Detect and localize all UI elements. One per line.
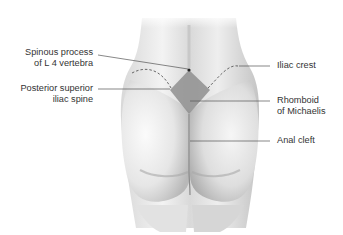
label-line: of L 4 vertebra <box>25 58 93 69</box>
label-line: Anal cleft <box>277 135 315 146</box>
label-line: Rhomboid <box>277 95 326 106</box>
label-anal-cleft: Anal cleft <box>277 135 315 146</box>
label-rhomboid-of-michaelis: Rhomboid of Michaelis <box>277 95 326 117</box>
label-line: Spinous process <box>25 47 93 58</box>
label-line: Iliac crest <box>277 60 316 71</box>
label-spinous-process-l4: Spinous process of L 4 vertebra <box>25 47 93 69</box>
label-line: iliac spine <box>20 94 93 105</box>
label-posterior-superior-iliac-spine: Posterior superior iliac spine <box>20 83 93 105</box>
label-iliac-crest: Iliac crest <box>277 60 316 71</box>
torso-illustration <box>0 0 343 235</box>
label-line: of Michaelis <box>277 106 326 117</box>
anatomy-diagram: Spinous process of L 4 vertebra Posterio… <box>0 0 343 235</box>
label-line: Posterior superior <box>20 83 93 94</box>
